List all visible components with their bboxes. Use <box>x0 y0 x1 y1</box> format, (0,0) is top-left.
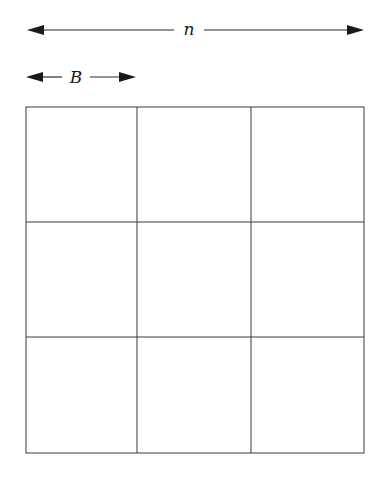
grid-border <box>26 107 364 453</box>
matrix-grid <box>26 107 364 453</box>
blocked-matrix-diagram: n B <box>0 0 380 479</box>
b-label: B <box>69 67 83 87</box>
b-block-arrow: B <box>26 67 136 87</box>
arrow-right-icon <box>347 25 364 35</box>
n-dimension-arrow: n <box>27 19 364 39</box>
arrow-left-icon <box>27 25 44 35</box>
n-label: n <box>184 19 195 39</box>
arrow-right-icon <box>119 72 136 82</box>
arrow-left-icon <box>26 72 43 82</box>
